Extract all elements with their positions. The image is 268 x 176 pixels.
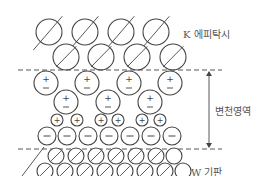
label-w-substrate: W 기판 [191, 164, 222, 176]
w-atom [117, 163, 133, 176]
plus-sign: + [42, 74, 50, 84]
w-atom [137, 163, 153, 176]
plus-sign: + [104, 93, 112, 103]
plus-sign: + [166, 74, 174, 84]
plus-sign: + [125, 74, 133, 84]
w-atom [157, 163, 173, 176]
plus-sign: + [139, 116, 146, 125]
plus-sign: + [115, 116, 122, 125]
plus-sign: + [157, 116, 164, 125]
plus-sign: + [62, 93, 70, 103]
label-k-epitaxy: K 에피탁시 [183, 26, 230, 41]
w-atom [37, 163, 53, 176]
plus-sign: + [98, 116, 105, 125]
label-transition-region: 변천영역 [215, 103, 251, 118]
w-atom [166, 148, 182, 164]
w-atom [57, 163, 73, 176]
plus-sign: + [83, 74, 91, 84]
arrow-up-icon [206, 71, 212, 76]
arrow-down-icon [206, 143, 212, 148]
plus-sign: + [146, 93, 154, 103]
w-atom [175, 163, 191, 176]
plus-sign: + [54, 116, 61, 125]
plus-sign: + [74, 116, 81, 125]
w-atom [97, 163, 113, 176]
w-atom [77, 163, 93, 176]
